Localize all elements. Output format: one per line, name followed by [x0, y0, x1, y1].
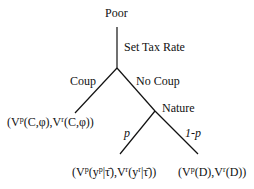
- edge-label-one-minus-p: 1-p: [185, 126, 201, 140]
- payoff-one-minus-p-branch: (Vp(D),Vr(D)): [178, 165, 246, 179]
- edge-label-no-coup: No Coup: [136, 74, 180, 88]
- edge-label-coup: Coup: [70, 74, 96, 88]
- payoff-p-branch: (Vp(yp|τ̄),Vr(yr|τ̄)): [72, 165, 156, 179]
- root-node-label: Poor: [105, 6, 128, 20]
- edge-label-p: p: [124, 126, 130, 140]
- edge-label-set-tax-rate: Set Tax Rate: [124, 40, 185, 54]
- chance-node-label: Nature: [162, 101, 195, 115]
- payoff-coup: (Vp(C,φ),Vr(C,φ)): [7, 115, 94, 129]
- tree-edges: [0, 0, 254, 189]
